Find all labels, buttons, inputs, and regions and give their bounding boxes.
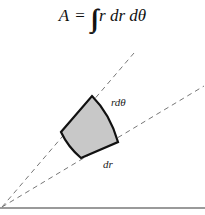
radial-increment-label: dr xyxy=(103,158,114,170)
area-element-region xyxy=(61,96,118,158)
polar-area-element-diagram: rdθ dr xyxy=(0,0,205,215)
arc-length-label: rdθ xyxy=(111,96,126,108)
